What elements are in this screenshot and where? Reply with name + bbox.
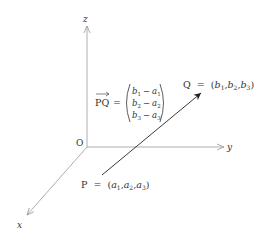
vector-equals: = — [113, 97, 121, 108]
vector-pq-name: PQ — [95, 97, 109, 108]
matrix-row-2: b2−a2 — [132, 98, 161, 109]
x-axis — [27, 147, 87, 215]
vector-pq-formula: PQ = b1−a1 b2−a2 b3−a3 — [95, 84, 164, 122]
matrix-row-3: b3−a3 — [132, 110, 161, 121]
point-p-label: P = (a1,a2,a3) — [81, 179, 149, 191]
x-axis-label: x — [17, 220, 22, 230]
origin-label: O — [76, 138, 83, 148]
svg-text:P = (a1,a2,a3): P = (a1,a2,a3) — [81, 179, 149, 191]
vector-diagram: z y x O Q = (b1,b2,b3) P = (a1,a2,a3) PQ… — [0, 0, 261, 238]
point-q-label: Q = (b1,b2,b3) — [183, 79, 254, 91]
z-axis-label: z — [82, 14, 88, 24]
y-axis-label: y — [226, 142, 233, 152]
matrix-row-1: b1−a1 — [132, 86, 161, 97]
svg-text:Q = (b1,b2,b3): Q = (b1,b2,b3) — [183, 79, 254, 91]
